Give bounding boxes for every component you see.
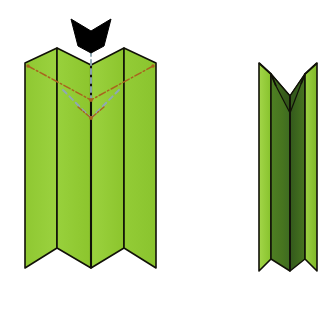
crease-node-right-edge: [151, 64, 154, 67]
crease-node-upper: [89, 98, 93, 102]
collapsed-panel-1-outer-left: [259, 63, 271, 271]
fold-diagram-canvas: [0, 0, 331, 313]
push-arrow: [71, 19, 111, 53]
panel-1-left-outer: [25, 48, 57, 268]
origami-fold-diagram: [0, 0, 331, 313]
panel-4-right-outer: [124, 48, 156, 268]
crease-node-lower: [89, 116, 93, 120]
figure-pleated-sheet-before: [25, 48, 156, 268]
crease-node-left-edge: [26, 64, 29, 67]
panel-3-right-inner: [91, 48, 124, 268]
push-arrow-head-icon: [71, 19, 111, 53]
figure-pleated-sheet-collapsed: [259, 63, 317, 271]
collapsed-panel-4-outer-right: [305, 63, 317, 271]
panel-2-left-inner: [57, 48, 91, 268]
